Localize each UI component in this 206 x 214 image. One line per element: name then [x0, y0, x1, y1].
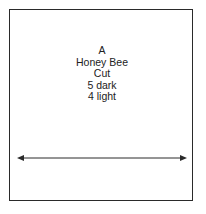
block-label: A Honey Bee Cut 5 dark 4 light: [10, 45, 194, 103]
double-arrow-icon: [17, 153, 187, 163]
pattern-block: A Honey Bee Cut 5 dark 4 light: [9, 9, 193, 201]
block-light-count: 4 light: [10, 91, 194, 103]
block-letter: A: [10, 45, 194, 57]
